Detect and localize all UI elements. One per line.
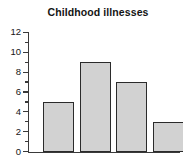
y-axis-tick <box>23 72 29 73</box>
y-axis-tick-label: 6 <box>0 87 21 97</box>
y-axis-tick <box>23 111 29 112</box>
y-axis-tick <box>23 32 29 33</box>
plot-area: 024681012 <box>0 0 183 165</box>
y-axis-tick <box>23 91 29 92</box>
y-axis-minor-tick <box>25 101 29 102</box>
y-axis-minor-tick <box>25 121 29 122</box>
y-axis-tick-label: 0 <box>0 147 21 157</box>
y-axis-tick-label: 12 <box>0 27 21 37</box>
y-axis-tick <box>23 151 29 152</box>
y-axis-tick <box>23 131 29 132</box>
y-axis-tick-label: 2 <box>0 127 21 137</box>
y-axis-tick <box>23 52 29 53</box>
y-axis-tick-label: 8 <box>0 67 21 77</box>
y-axis-minor-tick <box>25 141 29 142</box>
y-axis-minor-tick <box>25 42 29 43</box>
bar <box>116 82 147 152</box>
x-axis-line <box>28 152 180 153</box>
bar <box>80 62 111 151</box>
y-axis-minor-tick <box>25 81 29 82</box>
bar <box>43 102 74 152</box>
bar-chart: Childhood illnesses 024681012 <box>0 0 183 165</box>
y-axis-tick-label: 4 <box>0 107 21 117</box>
y-axis-tick-label: 10 <box>0 47 21 57</box>
y-axis-minor-tick <box>25 62 29 63</box>
bar <box>153 122 184 152</box>
